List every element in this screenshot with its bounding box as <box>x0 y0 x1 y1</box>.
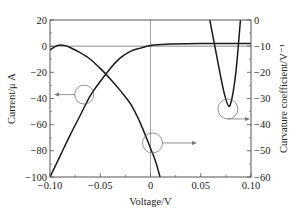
plot-area <box>50 20 251 177</box>
y-axis-label-left: Current/μ A <box>6 73 17 124</box>
x-axis-label: Voltage/V <box>129 196 172 207</box>
y-tick-label-right: −60 <box>254 172 270 183</box>
y-tick-label-left: −60 <box>31 119 47 130</box>
annotations <box>54 85 250 153</box>
y-tick-label-right: −10 <box>254 41 270 52</box>
y-tick-label-left: 20 <box>37 15 48 26</box>
y-tick-label-left: −20 <box>31 67 47 78</box>
dual-axis-line-chart: −0.10−0.0500.050.10200−20−40−60−80−1000−… <box>0 0 297 214</box>
y-tick-label-left: −80 <box>31 145 47 156</box>
arrowhead-icon <box>54 93 59 97</box>
y-tick-label-right: −40 <box>254 119 270 130</box>
x-tick-label: −0.05 <box>88 180 112 191</box>
y-tick-label-right: −50 <box>254 145 270 156</box>
x-tick-label: 0.05 <box>192 180 210 191</box>
y-tick-label-right: −20 <box>254 67 270 78</box>
series-line-2 <box>50 45 160 177</box>
y-tick-label-right: 0 <box>254 15 259 26</box>
x-tick-label: 0 <box>148 180 153 191</box>
y-tick-label-left: −40 <box>31 93 47 104</box>
annotation-circle-curvature-1 <box>143 133 163 153</box>
y-tick-label-right: −30 <box>254 93 270 104</box>
y-axis-label-right: Curvature coefficient/V⁻¹ <box>278 44 289 153</box>
arrowhead-icon <box>192 141 197 145</box>
y-tick-label-left: −100 <box>25 172 47 183</box>
axis-ticks: −0.10−0.0500.050.10200−20−40−60−80−1000−… <box>25 15 270 192</box>
arrowhead-icon <box>245 117 250 121</box>
series-line-3 <box>210 20 241 106</box>
y-tick-label-left: 0 <box>42 41 47 52</box>
annotation-circle-curvature-2 <box>218 99 238 119</box>
